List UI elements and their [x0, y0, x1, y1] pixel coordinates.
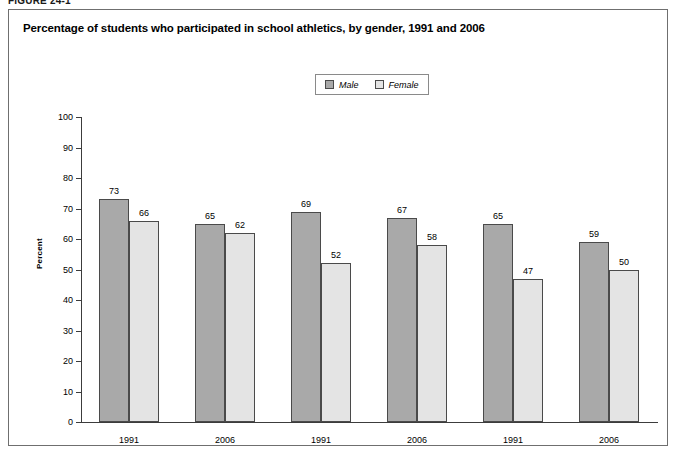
bar-value-label: 73 — [109, 186, 119, 196]
y-axis-tick-label: 0 — [68, 417, 73, 427]
y-axis-tick-label: 50 — [63, 265, 73, 275]
x-axis-year-label: 1991 — [311, 435, 331, 445]
bar-value-label: 50 — [619, 257, 629, 267]
y-axis-tick — [76, 178, 81, 179]
y-axis-tick — [76, 209, 81, 210]
x-axis-year-label: 1991 — [503, 435, 523, 445]
bar-male-4: 65 — [483, 224, 513, 422]
bar-value-label: 62 — [235, 220, 245, 230]
bar-value-label: 65 — [205, 211, 215, 221]
bar-male-0: 73 — [99, 199, 129, 422]
y-axis-tick — [76, 422, 81, 423]
y-axis-tick-label: 90 — [63, 143, 73, 153]
y-axis-tick — [76, 148, 81, 149]
y-axis-line — [81, 117, 82, 423]
y-axis-tick-label: 20 — [63, 356, 73, 366]
bar-female-0: 66 — [129, 221, 159, 422]
bar-value-label: 69 — [301, 199, 311, 209]
chart-legend: Male Female — [315, 74, 429, 95]
bar-female-2: 52 — [321, 263, 351, 422]
legend-label-female: Female — [389, 80, 419, 90]
figure-frame: Percentage of students who participated … — [8, 9, 668, 446]
bar-value-label: 58 — [427, 232, 437, 242]
bar-female-3: 58 — [417, 245, 447, 422]
x-axis-year-label: 2006 — [599, 435, 619, 445]
legend-item-male: Male — [325, 80, 359, 90]
y-axis-tick — [76, 392, 81, 393]
y-axis-tick — [76, 239, 81, 240]
figure-label: FIGURE 24-1 — [8, 0, 71, 6]
bar-female-1: 62 — [225, 233, 255, 422]
y-axis-tick — [76, 270, 81, 271]
y-axis-tick-label: 70 — [63, 204, 73, 214]
y-axis-tick-label: 10 — [63, 387, 73, 397]
bar-male-3: 67 — [387, 218, 417, 422]
legend-swatch-male-icon — [325, 80, 334, 89]
y-axis-tick-label: 30 — [63, 326, 73, 336]
bar-female-4: 47 — [513, 279, 543, 422]
bar-male-1: 65 — [195, 224, 225, 422]
y-axis-tick-label: 80 — [63, 173, 73, 183]
bar-value-label: 67 — [397, 205, 407, 215]
chart-title: Percentage of students who participated … — [23, 22, 485, 34]
bar-male-2: 69 — [291, 212, 321, 422]
y-axis-tick — [76, 300, 81, 301]
bar-value-label: 52 — [331, 250, 341, 260]
x-axis-year-label: 2006 — [215, 435, 235, 445]
x-axis-year-label: 1991 — [119, 435, 139, 445]
bar-value-label: 65 — [493, 211, 503, 221]
legend-item-female: Female — [375, 80, 419, 90]
x-axis-line — [81, 422, 658, 423]
bar-value-label: 59 — [589, 229, 599, 239]
y-axis-tick-label: 100 — [58, 112, 73, 122]
x-axis-year-label: 2006 — [407, 435, 427, 445]
y-axis-tick-label: 60 — [63, 234, 73, 244]
bar-value-label: 47 — [523, 266, 533, 276]
y-axis-tick — [76, 331, 81, 332]
legend-swatch-female-icon — [375, 80, 384, 89]
bar-value-label: 66 — [139, 208, 149, 218]
y-axis-tick — [76, 361, 81, 362]
y-axis-title: Percent — [35, 238, 44, 269]
plot-area: 0102030405060708090100 73666562695267586… — [81, 117, 657, 422]
bar-male-5: 59 — [579, 242, 609, 422]
y-axis-tick-label: 40 — [63, 295, 73, 305]
legend-label-male: Male — [339, 80, 359, 90]
y-axis-tick — [76, 117, 81, 118]
bar-female-5: 50 — [609, 270, 639, 423]
